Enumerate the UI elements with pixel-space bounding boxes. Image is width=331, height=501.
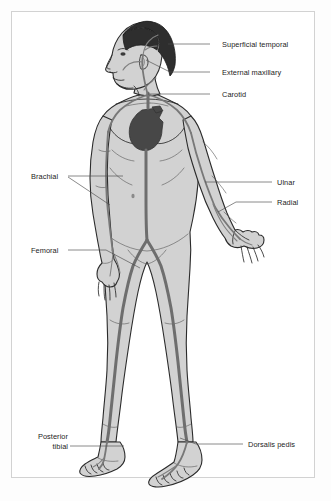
label-external-maxillary: External maxillary: [222, 68, 281, 77]
label-superficial-temporal: Superficial temporal: [222, 40, 288, 49]
label-carotid: Carotid: [222, 90, 246, 99]
label-ulnar: Ulnar: [277, 178, 295, 187]
label-brachial: Brachial: [31, 172, 58, 181]
label-posterior-tibial-line1: Posterior: [10, 432, 68, 442]
label-dorsalis-pedis: Dorsalis pedis: [248, 440, 295, 449]
label-posterior-tibial-line2: tibial: [10, 442, 68, 452]
diagram-page: .body-fill { fill:#d2d2d2; stroke:#2b2b2…: [0, 0, 331, 501]
label-radial: Radial: [277, 198, 298, 207]
label-femoral: Femoral: [31, 246, 58, 255]
label-posterior-tibial: Posterior tibial: [10, 432, 68, 451]
